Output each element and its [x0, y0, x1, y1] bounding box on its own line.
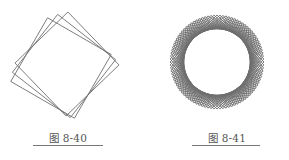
square-outline: [172, 17, 263, 108]
figure-8-40: 图 8-40: [0, 0, 145, 160]
caption-underline: [192, 145, 260, 146]
caption-underline: [33, 145, 103, 146]
square-outline: [15, 12, 119, 116]
square-outline: [170, 15, 263, 108]
square-outline: [171, 16, 263, 108]
square-outline: [12, 14, 115, 117]
square-outline: [171, 16, 263, 108]
square-outline: [174, 19, 261, 106]
figure-caption: 图 8-40: [49, 130, 87, 145]
square-outline: [172, 17, 263, 108]
square-outline: [174, 19, 261, 106]
figure-8-41: 图 8-41: [145, 0, 289, 160]
figure-caption: 图 8-41: [208, 130, 246, 145]
square-outline: [170, 15, 263, 108]
square-outline: [11, 18, 111, 118]
